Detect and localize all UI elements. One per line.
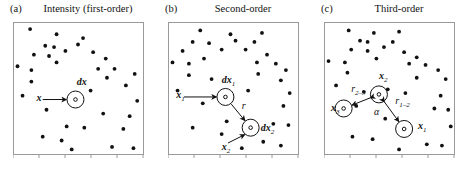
data-point <box>135 99 139 103</box>
data-point <box>60 139 64 143</box>
data-point <box>265 53 269 57</box>
data-point <box>65 125 69 129</box>
data-point <box>128 114 132 118</box>
data-point <box>343 61 347 65</box>
data-point <box>220 48 224 52</box>
data-point <box>191 126 195 130</box>
data-point <box>351 135 355 139</box>
data-point <box>110 145 114 149</box>
data-point <box>113 67 117 71</box>
data-point <box>76 43 80 47</box>
data-point <box>436 68 440 72</box>
alpha-label: α <box>374 107 379 117</box>
data-point <box>191 40 195 44</box>
data-point <box>449 125 453 129</box>
data-point <box>424 63 428 67</box>
r12-label-subscript: 1–2 <box>399 101 410 109</box>
data-point <box>334 84 338 88</box>
data-point <box>16 64 20 68</box>
r-label-text: r <box>242 100 246 111</box>
data-point <box>47 54 51 58</box>
data-point <box>210 77 214 81</box>
data-point <box>440 144 444 148</box>
data-point <box>207 41 211 45</box>
data-point <box>358 39 362 43</box>
data-point <box>256 72 260 76</box>
data-point <box>274 62 278 66</box>
x2-label: x2 <box>379 71 388 84</box>
data-point <box>397 30 401 34</box>
data-point <box>124 84 128 88</box>
dx1-circle <box>217 88 234 105</box>
data-point <box>255 61 259 65</box>
x2-circle <box>370 86 387 103</box>
data-point <box>372 31 376 35</box>
dx2-label-text: dx <box>261 122 271 133</box>
plot-frame <box>325 23 455 155</box>
data-point <box>29 68 33 72</box>
data-point <box>52 45 56 49</box>
data-point <box>171 61 175 65</box>
panel-title: Intensity (first-order) <box>33 3 143 14</box>
data-point <box>240 146 244 150</box>
data-point <box>403 91 407 95</box>
dx2-label: dx2 <box>261 123 275 136</box>
data-point <box>202 57 206 61</box>
data-point <box>371 137 375 141</box>
data-point <box>397 148 401 152</box>
panel-title: Third-order <box>344 3 454 14</box>
data-point <box>28 27 32 31</box>
data-point <box>187 73 191 77</box>
x2-label-subscript: 2 <box>227 147 231 155</box>
data-point <box>101 112 105 116</box>
data-point <box>383 117 387 121</box>
x1-circle <box>396 120 413 137</box>
data-point <box>70 148 74 152</box>
r23-label-subscript: 2–3 <box>355 89 366 97</box>
data-point <box>21 94 25 98</box>
x2-label-subscript: 2 <box>384 76 388 84</box>
data-point <box>132 146 136 150</box>
dx-label-text: dx <box>77 76 87 87</box>
data-point <box>407 62 411 66</box>
panel-title: Second-order <box>188 3 298 14</box>
data-point <box>446 108 450 112</box>
data-point <box>444 77 448 81</box>
data-point <box>187 62 191 66</box>
data-point <box>201 101 205 105</box>
plot-frame <box>14 23 144 155</box>
data-point <box>260 31 264 35</box>
panel-tag: (a) <box>10 3 22 14</box>
x2-label: x2 <box>222 142 231 155</box>
data-point <box>391 40 395 44</box>
data-point <box>346 71 350 75</box>
data-point <box>288 91 292 95</box>
scatter-plot <box>13 22 157 170</box>
x-label: x <box>36 93 41 103</box>
data-point <box>121 127 125 131</box>
data-point <box>91 50 95 54</box>
data-point <box>349 48 353 52</box>
panel-b: (b)Second-orderdx1x1rdx2x2 <box>168 0 298 172</box>
data-point <box>415 76 419 80</box>
data-point <box>45 108 49 112</box>
data-point <box>96 67 100 71</box>
r-label: r <box>242 101 246 111</box>
panel-c: (c)Third-orderx2x3x1r2–3r1–2α <box>324 0 454 172</box>
data-point <box>287 123 291 127</box>
x-label-text: x <box>36 92 41 103</box>
data-point <box>246 89 250 93</box>
data-point <box>229 32 233 36</box>
r23-arrow <box>352 98 370 105</box>
data-point <box>366 49 370 53</box>
data-point <box>347 29 351 33</box>
data-point <box>261 140 265 144</box>
data-point <box>198 29 202 33</box>
x1-label-subscript: 1 <box>181 95 185 103</box>
data-point <box>282 104 286 108</box>
x1-label: x1 <box>176 90 185 103</box>
data-point <box>279 78 283 82</box>
data-point <box>104 57 108 61</box>
figure-root: (a)Intensity (first-order)dxx(b)Second-o… <box>0 0 476 172</box>
x1-label-subscript: 1 <box>423 126 427 134</box>
